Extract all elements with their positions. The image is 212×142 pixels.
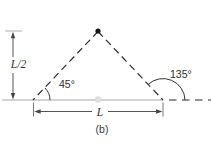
height-arrowhead-down	[11, 93, 15, 99]
base-arrowhead-left	[34, 109, 40, 113]
left-angle-label: 45°	[59, 78, 75, 90]
right-angle-arc	[148, 79, 185, 100]
right-angle-label: 135°	[170, 68, 192, 80]
left-angle-group: 45°	[45, 78, 75, 100]
diagram-svg: 45° 135° L/2 L (b)	[0, 0, 212, 142]
height-dimension-group: L/2	[6, 31, 27, 100]
base-dimension-label: L	[96, 106, 103, 118]
triangle-diagram: 45° 135° L/2 L (b)	[0, 0, 212, 142]
base-dimension-group: L	[34, 103, 164, 118]
left-angle-arc	[45, 88, 50, 100]
triangle-group	[33, 28, 163, 100]
base-midpoint-marker	[95, 96, 101, 102]
height-dimension-label: L/2	[10, 58, 27, 70]
triangle-right-side	[98, 32, 163, 101]
height-arrowhead-up	[11, 32, 15, 38]
base-arrowhead-right	[156, 109, 162, 113]
right-angle-group: 135°	[148, 68, 192, 100]
apex-point-marker	[95, 28, 100, 33]
figure-caption: (b)	[96, 123, 109, 135]
